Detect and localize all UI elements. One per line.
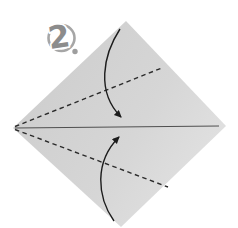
paper-sheet (13, 21, 226, 227)
step-badge: 2 (46, 17, 78, 56)
step-badge-dot (72, 49, 77, 54)
step-number: 2 (46, 17, 72, 56)
origami-step-canvas: 2 (0, 0, 238, 228)
origami-diagram: 2 (0, 0, 238, 228)
